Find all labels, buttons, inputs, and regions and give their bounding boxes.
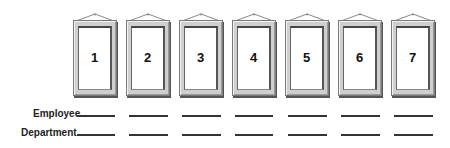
frame-border: 4 xyxy=(232,20,276,96)
frame-canvas: 2 xyxy=(131,26,165,90)
department-blank-6 xyxy=(341,134,380,136)
employee-label: Employee xyxy=(33,108,80,119)
picture-frame-4: 4 xyxy=(232,13,276,96)
frame-border: 7 xyxy=(391,20,435,96)
frame-canvas: 7 xyxy=(396,26,430,90)
frame-canvas: 1 xyxy=(78,26,112,90)
frame-canvas: 3 xyxy=(184,26,218,90)
frame-number: 5 xyxy=(291,50,322,65)
department-blank-2 xyxy=(129,134,168,136)
frame-number: 4 xyxy=(238,50,269,65)
frame-border: 3 xyxy=(179,20,223,96)
picture-frame-6: 6 xyxy=(338,13,382,96)
frame-number: 7 xyxy=(397,50,428,65)
frame-canvas: 5 xyxy=(290,26,324,90)
employee-blank-4 xyxy=(235,115,273,117)
employee-blank-7 xyxy=(394,115,433,117)
frame-canvas: 6 xyxy=(343,26,377,90)
picture-frame-3: 3 xyxy=(179,13,223,96)
frame-border: 6 xyxy=(338,20,382,96)
department-blank-1 xyxy=(77,134,115,136)
picture-frame-2: 2 xyxy=(126,13,170,96)
frame-number: 2 xyxy=(132,50,163,65)
frame-number: 1 xyxy=(79,50,110,65)
employee-blank-6 xyxy=(341,115,380,117)
department-blank-3 xyxy=(182,134,221,136)
frame-border: 1 xyxy=(73,20,117,96)
department-blank-4 xyxy=(235,134,273,136)
frame-border: 5 xyxy=(285,20,329,96)
department-blank-5 xyxy=(288,134,327,136)
frame-number: 6 xyxy=(344,50,375,65)
frame-number: 3 xyxy=(185,50,216,65)
picture-frame-5: 5 xyxy=(285,13,329,96)
employee-blank-2 xyxy=(129,115,168,117)
frame-canvas: 4 xyxy=(237,26,271,90)
employee-blank-3 xyxy=(182,115,221,117)
employee-blank-5 xyxy=(288,115,327,117)
frame-border: 2 xyxy=(126,20,170,96)
picture-frame-7: 7 xyxy=(391,13,435,96)
picture-frame-1: 1 xyxy=(73,13,117,96)
employee-blank-1 xyxy=(77,115,115,117)
department-blank-7 xyxy=(394,134,433,136)
department-label: Department xyxy=(21,127,77,138)
